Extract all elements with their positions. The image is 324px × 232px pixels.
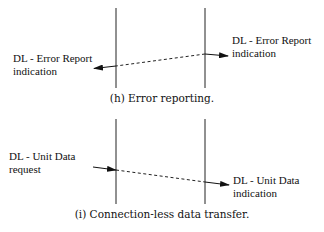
- panel-i-right-label: DL - Unit Data indication: [233, 174, 300, 200]
- panel-h-lifelines: [116, 8, 205, 88]
- label-line: indication: [233, 187, 300, 200]
- label-line: DL - Error Report: [13, 52, 92, 65]
- panel-i-caption: (i) Connection-less data transfer.: [0, 208, 324, 220]
- label-line: DL - Error Report: [232, 34, 311, 47]
- label-line: indication: [13, 65, 92, 78]
- panel-i-lifelines: [116, 119, 205, 204]
- panel-i-messages: [93, 167, 229, 185]
- label-line: indication: [232, 47, 311, 60]
- label-line: DL - Unit Data: [9, 150, 76, 163]
- panel-h-left-label: DL - Error Report indication: [13, 52, 92, 78]
- panel-h-messages: [94, 54, 228, 69]
- label-line: DL - Unit Data: [233, 174, 300, 187]
- panel-h-caption: (h) Error reporting.: [0, 92, 324, 104]
- panel-i-left-label: DL - Unit Data request: [9, 150, 76, 176]
- panel-h-right-label: DL - Error Report indication: [232, 34, 311, 60]
- label-line: request: [9, 163, 76, 176]
